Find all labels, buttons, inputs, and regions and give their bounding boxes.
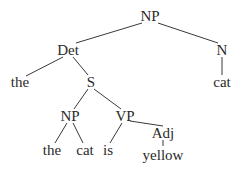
- node-adj: Adj: [152, 126, 175, 141]
- leaf-the-1: the: [11, 75, 29, 90]
- tree-edge: [158, 23, 218, 43]
- node-s: S: [87, 75, 95, 90]
- tree-edge: [73, 123, 83, 143]
- tree-edge: [94, 89, 121, 109]
- tree-edge: [73, 57, 88, 75]
- tree-edge: [74, 89, 88, 109]
- leaf-cat-1: cat: [213, 75, 230, 90]
- tree-edge: [55, 123, 67, 143]
- node-vp: VP: [115, 109, 134, 124]
- tree-edges: [0, 0, 242, 169]
- tree-edge: [76, 23, 142, 43]
- node-det: Det: [57, 43, 79, 58]
- leaf-cat-2: cat: [76, 143, 93, 158]
- leaf-yellow: yellow: [143, 148, 184, 163]
- tree-edge: [110, 123, 122, 143]
- node-n: N: [217, 43, 228, 58]
- node-np-root: NP: [140, 9, 159, 24]
- tree-edge: [26, 57, 63, 76]
- leaf-the-2: the: [43, 143, 61, 158]
- node-np-inner: NP: [60, 109, 79, 124]
- leaf-is: is: [103, 143, 113, 158]
